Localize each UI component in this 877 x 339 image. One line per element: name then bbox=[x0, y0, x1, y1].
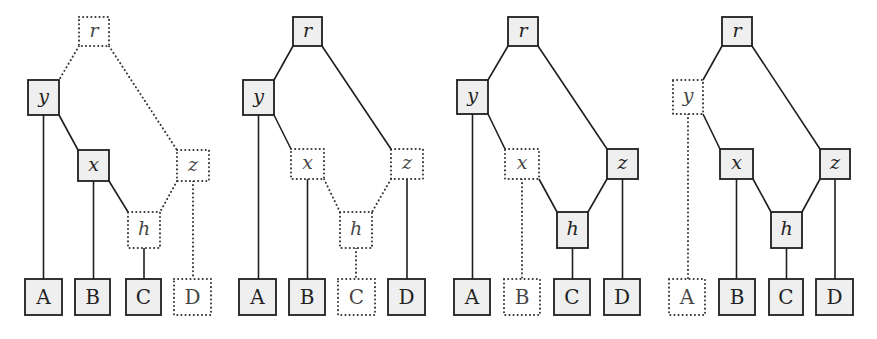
node-label: h bbox=[350, 217, 362, 239]
node-label: B bbox=[85, 285, 100, 309]
node-label: B bbox=[515, 285, 530, 309]
diagram-canvas: ryxzhABCDryxzhABCDryxzhABCDryxzhABCD bbox=[0, 0, 877, 339]
node-B: B bbox=[719, 279, 755, 315]
node-label: z bbox=[829, 151, 841, 173]
node-label: C bbox=[349, 285, 364, 309]
node-h: h bbox=[771, 212, 802, 248]
node-y: y bbox=[673, 80, 703, 114]
edge-r-z bbox=[109, 46, 177, 150]
node-label: A bbox=[679, 285, 695, 309]
node-z: z bbox=[607, 149, 638, 179]
node-x: x bbox=[720, 149, 753, 179]
node-label: y bbox=[37, 85, 49, 107]
node-D: D bbox=[174, 279, 211, 315]
node-C: C bbox=[338, 279, 375, 315]
node-label: x bbox=[731, 151, 742, 173]
node-y: y bbox=[243, 80, 274, 115]
node-A: A bbox=[669, 279, 705, 315]
edge-r-z bbox=[538, 46, 607, 149]
edge-z-h bbox=[588, 179, 607, 212]
node-C: C bbox=[554, 279, 590, 315]
tree-diagrams: ryxzhABCDryxzhABCDryxzhABCDryxzhABCD bbox=[0, 0, 877, 339]
edge-y-x bbox=[488, 114, 505, 149]
edge-z-h bbox=[802, 179, 820, 212]
node-label: y bbox=[682, 84, 694, 106]
node-label: h bbox=[138, 217, 150, 239]
node-label: C bbox=[778, 285, 793, 309]
node-h: h bbox=[128, 212, 160, 248]
node-label: y bbox=[252, 85, 264, 107]
edge-x-h bbox=[109, 181, 128, 212]
node-label: z bbox=[616, 151, 628, 173]
node-h: h bbox=[340, 212, 372, 248]
node-label: x bbox=[517, 151, 528, 173]
node-x: x bbox=[78, 150, 109, 181]
node-B: B bbox=[75, 279, 110, 315]
node-r: r bbox=[293, 17, 322, 46]
node-label: D bbox=[826, 285, 842, 309]
node-C: C bbox=[769, 279, 803, 315]
node-C: C bbox=[126, 279, 161, 315]
edge-r-y bbox=[59, 46, 79, 80]
node-label: C bbox=[136, 285, 151, 309]
edges bbox=[688, 46, 835, 279]
edge-y-x bbox=[59, 115, 78, 150]
node-label: D bbox=[398, 285, 414, 309]
node-label: x bbox=[88, 153, 99, 175]
node-D: D bbox=[388, 279, 425, 315]
node-label: y bbox=[466, 84, 478, 106]
node-D: D bbox=[604, 279, 640, 315]
node-label: A bbox=[464, 285, 480, 309]
panel-2: ryxzhABCD bbox=[239, 17, 425, 315]
edge-r-y bbox=[274, 46, 293, 80]
node-label: B bbox=[730, 285, 745, 309]
panel-4: ryxzhABCD bbox=[669, 17, 853, 315]
edge-r-y bbox=[488, 46, 508, 80]
edge-r-z bbox=[752, 46, 820, 149]
panel-1: ryxzhABCD bbox=[25, 17, 211, 315]
node-x: x bbox=[505, 149, 539, 179]
node-label: h bbox=[780, 217, 792, 239]
node-h: h bbox=[557, 212, 588, 248]
edge-r-y bbox=[703, 46, 722, 80]
edges bbox=[473, 46, 623, 279]
edge-z-h bbox=[160, 181, 177, 212]
edge-z-h bbox=[372, 179, 391, 212]
edge-x-h bbox=[539, 179, 557, 212]
node-B: B bbox=[504, 279, 540, 315]
node-y: y bbox=[457, 80, 488, 114]
edge-y-x bbox=[274, 115, 291, 149]
node-label: z bbox=[187, 153, 199, 175]
node-label: B bbox=[300, 285, 315, 309]
edge-x-h bbox=[324, 179, 340, 212]
node-x: x bbox=[291, 149, 324, 179]
node-r: r bbox=[79, 17, 109, 46]
edge-x-h bbox=[753, 179, 771, 212]
edge-y-x bbox=[703, 114, 720, 149]
node-r: r bbox=[508, 17, 538, 46]
node-A: A bbox=[454, 279, 490, 315]
edges bbox=[44, 46, 194, 279]
edge-r-z bbox=[322, 46, 391, 149]
node-label: z bbox=[401, 151, 413, 173]
node-D: D bbox=[816, 279, 853, 315]
node-r: r bbox=[722, 17, 752, 46]
node-label: D bbox=[184, 285, 200, 309]
node-y: y bbox=[28, 80, 59, 115]
panel-3: ryxzhABCD bbox=[454, 17, 640, 315]
node-z: z bbox=[177, 150, 209, 181]
node-label: A bbox=[35, 285, 51, 309]
node-label: x bbox=[302, 151, 313, 173]
node-label: D bbox=[614, 285, 630, 309]
node-A: A bbox=[25, 279, 62, 315]
node-z: z bbox=[391, 149, 423, 179]
node-z: z bbox=[820, 149, 850, 179]
edges bbox=[259, 46, 408, 279]
node-label: A bbox=[249, 285, 265, 309]
node-B: B bbox=[289, 279, 325, 315]
node-label: C bbox=[564, 285, 579, 309]
node-label: h bbox=[566, 217, 578, 239]
node-A: A bbox=[239, 279, 276, 315]
